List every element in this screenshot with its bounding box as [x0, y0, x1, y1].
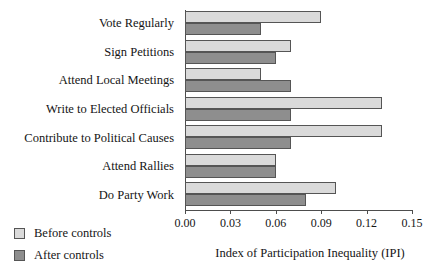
x-axis-title: Index of Participation Inequality (IPI) [185, 246, 435, 260]
chart-legend: Before controlsAfter controls [14, 222, 174, 266]
bar-group [185, 39, 412, 68]
bar-after-controls [185, 23, 261, 35]
bar-chart-figure: Vote RegularlySign PetitionsAttend Local… [0, 0, 435, 274]
bar-after-controls [185, 166, 276, 178]
category-label: Do Party Work [0, 189, 174, 202]
category-label: Attend Rallies [0, 160, 174, 173]
category-label: Vote Regularly [0, 17, 174, 30]
x-axis-tick-label: 0.00 [175, 216, 196, 230]
bar-before-controls [185, 182, 336, 194]
bar-before-controls [185, 40, 291, 52]
bar-after-controls [185, 194, 306, 206]
bar-before-controls [185, 97, 382, 109]
category-label: Write to Elected Officials [0, 103, 174, 116]
bar-before-controls [185, 154, 276, 166]
x-axis-tick-label: 0.03 [220, 216, 241, 230]
plot-area: 0.000.030.060.090.120.15 [185, 10, 412, 210]
legend-label: After controls [34, 249, 104, 262]
x-axis-tick-label: 0.15 [402, 216, 423, 230]
bar-group [185, 124, 412, 153]
bar-after-controls [185, 52, 276, 64]
legend-label: Before controls [34, 227, 111, 240]
bar-group [185, 153, 412, 182]
legend-swatch-icon [14, 228, 25, 239]
legend-swatch-icon [14, 250, 25, 261]
x-axis-tick-label: 0.12 [356, 216, 377, 230]
x-axis-tick-label: 0.09 [311, 216, 332, 230]
x-axis-tick [276, 210, 277, 214]
bar-after-controls [185, 80, 291, 92]
bar-after-controls [185, 109, 291, 121]
x-axis-line [185, 210, 412, 211]
bar-before-controls [185, 125, 382, 137]
category-label: Attend Local Meetings [0, 74, 174, 87]
x-axis-tick [412, 210, 413, 214]
bar-group [185, 10, 412, 39]
legend-item: Before controls [14, 222, 174, 244]
x-axis-tick [230, 210, 231, 214]
bar-group [185, 181, 412, 210]
x-axis-tick [321, 210, 322, 214]
bar-before-controls [185, 68, 261, 80]
x-axis-tick [367, 210, 368, 214]
bar-group [185, 96, 412, 125]
category-axis-labels: Vote RegularlySign PetitionsAttend Local… [0, 10, 180, 210]
bar-before-controls [185, 11, 321, 23]
category-label: Contribute to Political Causes [0, 132, 174, 145]
bar-group [185, 67, 412, 96]
x-axis-tick [185, 210, 186, 214]
category-label: Sign Petitions [0, 46, 174, 59]
x-axis-tick-label: 0.06 [265, 216, 286, 230]
bar-after-controls [185, 137, 291, 149]
legend-item: After controls [14, 244, 174, 266]
